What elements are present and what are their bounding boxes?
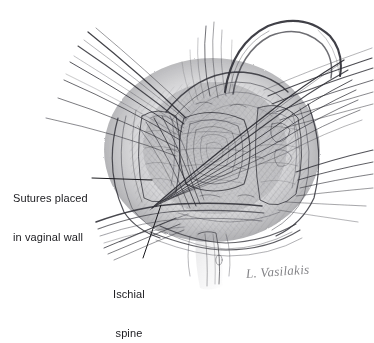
- label-sutures-placed: Sutures placed in vaginal wall: [13, 166, 88, 257]
- label-ischial-line1: Ischial: [113, 288, 145, 301]
- label-sutures-line2: in vaginal wall: [13, 231, 88, 244]
- label-sutures-line1: Sutures placed: [13, 192, 88, 205]
- label-ischial-line2: spine: [113, 327, 145, 340]
- label-ischial-spine: Ischial spine: [113, 262, 145, 343]
